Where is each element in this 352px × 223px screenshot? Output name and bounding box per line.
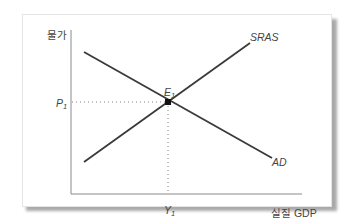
ad-as-chart: 물가 실질 GDP SRAS AD E1 P1 Y1 bbox=[0, 0, 352, 223]
y-axis-label: 물가 bbox=[47, 29, 67, 41]
ad-label: AD bbox=[271, 156, 287, 168]
equilibrium-label: E1 bbox=[164, 86, 175, 100]
sras-label: SRAS bbox=[250, 31, 279, 43]
x-axis-label: 실질 GDP bbox=[271, 207, 317, 219]
p1-label: P1 bbox=[56, 97, 67, 111]
y1-label: Y1 bbox=[164, 204, 175, 218]
